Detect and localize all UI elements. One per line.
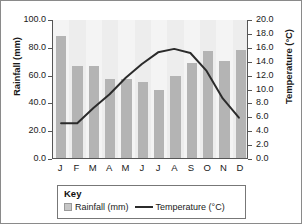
y-axis-left-tick-label: 20.0 — [6, 125, 46, 135]
tick-mark — [248, 34, 252, 35]
tick-mark — [248, 62, 252, 63]
climate-chart-figure: Rainfall (mm) Temperature (°C) 0.020.040… — [0, 0, 302, 224]
month-label: M — [85, 162, 101, 173]
plot-area — [52, 20, 248, 159]
tick-mark — [248, 159, 252, 160]
tick-mark — [248, 20, 252, 21]
y-axis-left-tick-label: 100.0 — [6, 14, 46, 24]
y-axis-right-tick-label: 6.0 — [256, 111, 296, 121]
tick-mark — [248, 103, 252, 104]
y-axis-right-tick-label: 18.0 — [256, 28, 296, 38]
y-axis-right-tick-label: 8.0 — [256, 97, 296, 107]
month-label: A — [101, 162, 117, 173]
temperature-line-series — [53, 20, 247, 158]
legend-title: Key — [64, 188, 239, 200]
legend-label-rainfall: Rainfall (mm) — [75, 202, 129, 212]
month-label: S — [183, 162, 199, 173]
month-label: J — [52, 162, 68, 173]
y-axis-left-tick-label: 60.0 — [6, 70, 46, 80]
y-axis-right-tick-label: 12.0 — [256, 70, 296, 80]
tick-mark — [248, 131, 252, 132]
bar-swatch-icon — [64, 203, 72, 211]
y-axis-left-tick-label: 40.0 — [6, 97, 46, 107]
tick-mark — [248, 76, 252, 77]
month-label: A — [167, 162, 183, 173]
tick-mark — [248, 117, 252, 118]
y-axis-right-tick-label: 0.0 — [256, 153, 296, 163]
tick-mark — [248, 145, 252, 146]
y-axis-right-tick-label: 20.0 — [256, 14, 296, 24]
month-label: D — [232, 162, 248, 173]
y-axis-right-tick-label: 16.0 — [256, 42, 296, 52]
month-label: O — [199, 162, 215, 173]
y-axis-right-tick-label: 10.0 — [256, 84, 296, 94]
y-axis-right-tick-label: 14.0 — [256, 56, 296, 66]
tick-mark — [48, 159, 52, 160]
month-label: J — [134, 162, 150, 173]
line-swatch-icon — [135, 206, 153, 208]
tick-mark — [248, 90, 252, 91]
legend-entry-temperature: Temperature (°C) — [135, 202, 225, 212]
tick-mark — [248, 48, 252, 49]
month-label: M — [118, 162, 134, 173]
y-axis-right-tick-label: 4.0 — [256, 125, 296, 135]
y-axis-left-tick-label: 0.0 — [6, 153, 46, 163]
legend-entry-rainfall: Rainfall (mm) — [64, 202, 129, 212]
month-label: J — [150, 162, 166, 173]
y-axis-left-tick-label: 80.0 — [6, 42, 46, 52]
legend-label-temperature: Temperature (°C) — [156, 202, 225, 212]
chart-legend: Key Rainfall (mm) Temperature (°C) — [57, 185, 246, 219]
month-label: F — [69, 162, 85, 173]
y-axis-right-tick-label: 2.0 — [256, 139, 296, 149]
month-label: N — [216, 162, 232, 173]
